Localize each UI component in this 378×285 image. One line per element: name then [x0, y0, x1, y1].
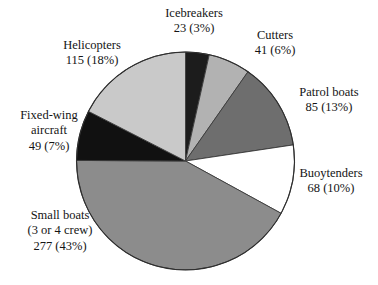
slice-label-icebreakers-value: 23 (3%): [146, 21, 242, 36]
slice-label-icebreakers: Icebreakers 23 (3%): [146, 6, 242, 37]
slice-label-small-boats: Small boats (3 or 4 crew) 277 (43%): [4, 208, 116, 254]
slice-label-fixed-wing-name1: Fixed-wing: [2, 108, 96, 123]
pie-chart-figure: Icebreakers 23 (3%) Cutters 41 (6%) Patr…: [0, 0, 378, 285]
slice-label-fixed-wing-name2: aircraft: [2, 123, 96, 138]
slice-label-cutters-value: 41 (6%): [234, 43, 316, 58]
slice-label-patrol-boats-name: Patrol boats: [281, 85, 377, 100]
slice-label-buoytenders-name: Buoytenders: [284, 166, 378, 181]
slice-label-fixed-wing-aircraft: Fixed-wing aircraft 49 (7%): [2, 108, 96, 154]
slice-label-helicopters-value: 115 (18%): [38, 53, 146, 68]
slice-label-icebreakers-name: Icebreakers: [146, 6, 242, 21]
slice-label-cutters-name: Cutters: [234, 28, 316, 43]
slice-label-small-boats-detail: (3 or 4 crew): [4, 223, 116, 238]
slice-label-buoytenders: Buoytenders 68 (10%): [284, 166, 378, 197]
slice-label-small-boats-name: Small boats: [4, 208, 116, 223]
slice-label-cutters: Cutters 41 (6%): [234, 28, 316, 59]
slice-label-buoytenders-value: 68 (10%): [284, 181, 378, 196]
slice-label-helicopters-name: Helicopters: [38, 38, 146, 53]
slice-label-helicopters: Helicopters 115 (18%): [38, 38, 146, 69]
slice-label-patrol-boats: Patrol boats 85 (13%): [281, 85, 377, 116]
slice-label-small-boats-value: 277 (43%): [4, 239, 116, 254]
slice-label-patrol-boats-value: 85 (13%): [281, 100, 377, 115]
slice-label-fixed-wing-value: 49 (7%): [2, 139, 96, 154]
